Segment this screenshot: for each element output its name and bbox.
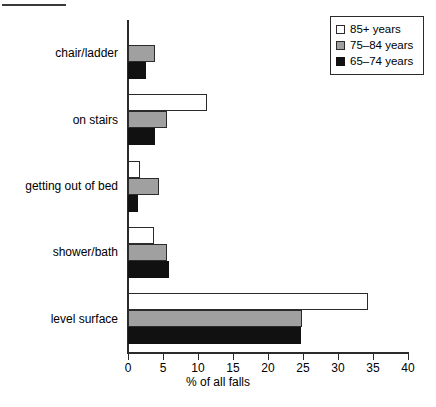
category-label: getting out of bed [0, 179, 118, 193]
x-tick-label: 15 [218, 361, 248, 375]
bar [128, 327, 301, 344]
legend-label: 75–84 years [350, 39, 413, 52]
x-tick-label: 5 [148, 361, 178, 375]
bar-group [128, 94, 408, 145]
bar-group [128, 161, 408, 212]
falls-bar-chart-figure: 0510152025303540 chair/ladderon stairsge… [0, 0, 436, 407]
bar [128, 244, 167, 261]
gray-square-swatch-icon [336, 41, 345, 50]
category-label: on stairs [0, 113, 118, 127]
legend: 85+ years 75–84 years 65–74 years [330, 16, 424, 75]
x-tick-mark [163, 354, 164, 360]
bar [128, 261, 169, 278]
legend-item[interactable]: 85+ years [336, 22, 418, 37]
x-axis-title: % of all falls [0, 375, 436, 389]
x-tick-mark [408, 354, 409, 360]
bar [128, 161, 140, 178]
x-tick-mark [338, 354, 339, 360]
bar-group [128, 227, 408, 278]
bar [128, 227, 154, 244]
bar [128, 178, 159, 195]
x-tick-mark [303, 354, 304, 360]
bar [128, 310, 302, 327]
x-tick-mark [198, 354, 199, 360]
x-tick-mark [128, 354, 129, 360]
black-square-swatch-icon [336, 57, 345, 66]
x-tick-label: 35 [358, 361, 388, 375]
bar [128, 128, 155, 145]
bar [128, 62, 146, 79]
x-tick-mark [268, 354, 269, 360]
x-tick-mark [373, 354, 374, 360]
bar [128, 94, 207, 111]
bar [128, 111, 167, 128]
x-tick-label: 40 [393, 361, 423, 375]
white-square-swatch-icon [336, 25, 345, 34]
x-tick-label: 0 [113, 361, 143, 375]
category-label: level surface [0, 312, 118, 326]
bar [128, 195, 138, 212]
header-rule [2, 4, 66, 6]
bar [128, 293, 368, 310]
legend-item[interactable]: 75–84 years [336, 38, 418, 53]
x-tick-label: 20 [253, 361, 283, 375]
category-label: shower/bath [0, 245, 118, 259]
legend-label: 85+ years [350, 23, 401, 36]
x-tick-label: 25 [288, 361, 318, 375]
bar [128, 45, 155, 62]
bar-group [128, 293, 408, 344]
legend-label: 65–74 years [350, 55, 413, 68]
x-tick-mark [233, 354, 234, 360]
category-label: chair/ladder [0, 46, 118, 60]
legend-item[interactable]: 65–74 years [336, 54, 418, 69]
x-tick-label: 10 [183, 361, 213, 375]
x-tick-label: 30 [323, 361, 353, 375]
